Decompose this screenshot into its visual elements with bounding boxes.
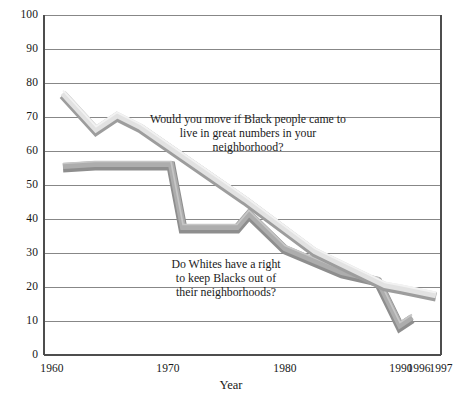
y-tick-10: 10 [4, 314, 38, 326]
annotation-would-you-move: Would you move if Black people came to l… [148, 113, 348, 155]
y-tick-90: 90 [4, 42, 38, 54]
y-tick-40: 40 [4, 212, 38, 224]
chart-canvas [0, 0, 462, 407]
y-tick-50: 50 [4, 178, 38, 190]
y-tick-70: 70 [4, 110, 38, 122]
x-axis-title: Year [0, 378, 462, 393]
y-tick-60: 60 [4, 144, 38, 156]
y-tick-30: 30 [4, 246, 38, 258]
x-tick-1997: 1997 [420, 362, 462, 374]
series-right-body [63, 164, 412, 325]
y-tick-20: 20 [4, 280, 38, 292]
series-right-to-keep-out [63, 162, 412, 328]
y-tick-80: 80 [4, 76, 38, 88]
chart-container: 100 90 80 70 60 50 40 30 20 10 0 1960 19… [0, 0, 462, 407]
x-tick-1980: 1980 [261, 362, 309, 374]
y-tick-0: 0 [4, 348, 38, 360]
x-tick-1970: 1970 [144, 362, 192, 374]
x-tick-1960: 1960 [28, 362, 76, 374]
y-tick-100: 100 [4, 8, 38, 20]
annotation-right-to-keep-out: Do Whites have a right to keep Blacks ou… [136, 258, 316, 300]
